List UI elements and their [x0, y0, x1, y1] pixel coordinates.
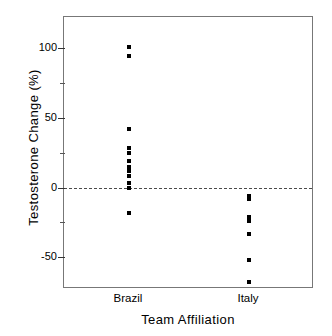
y-axis-tick-minor — [60, 222, 65, 223]
data-point — [127, 169, 131, 173]
y-axis-tick-labels: 100500-50 — [0, 0, 61, 336]
y-axis-tick-label: -50 — [41, 250, 57, 262]
y-axis-tick-major — [58, 48, 65, 49]
y-axis-tick-major — [58, 257, 65, 258]
data-point — [247, 197, 251, 201]
data-point — [127, 211, 131, 215]
data-point — [247, 219, 251, 223]
chart-figure: Testosterone Change (%) 100500-50 Brazil… — [0, 0, 332, 336]
data-point — [247, 258, 251, 262]
plot-area — [63, 16, 313, 288]
data-point — [127, 127, 131, 131]
data-point — [247, 280, 251, 284]
y-axis-tick-label: 0 — [51, 181, 57, 193]
zero-reference-line — [64, 188, 312, 189]
x-axis-category-labels: BrazilItaly — [63, 292, 313, 308]
y-axis-tick-major — [58, 118, 65, 119]
x-axis-category-label: Brazil — [114, 292, 143, 304]
data-point — [127, 151, 131, 155]
data-point — [247, 232, 251, 236]
y-axis-tick-major — [58, 188, 65, 189]
x-axis-title: Team Affiliation — [63, 312, 313, 327]
x-axis-category-label: Italy — [237, 292, 258, 304]
data-point — [127, 159, 131, 163]
data-point — [127, 45, 131, 49]
y-axis-tick-minor — [60, 153, 65, 154]
y-axis-tick-label: 100 — [39, 41, 57, 53]
data-point — [127, 54, 131, 58]
data-point — [127, 174, 131, 178]
data-point — [127, 186, 131, 190]
y-axis-tick-minor — [60, 83, 65, 84]
y-axis-tick-label: 50 — [45, 111, 57, 123]
